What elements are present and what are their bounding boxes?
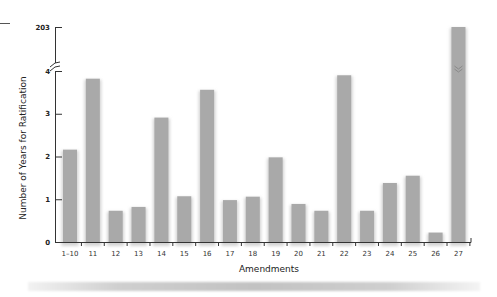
bar-chart: 1–101112131415161718192021222324252627 0… [0,0,497,297]
bar-15 [177,196,191,242]
x-tick-label: 16 [203,250,212,258]
y-tick-label: 0 [45,239,50,247]
x-tick-label: 20 [294,250,303,258]
bar-27 [451,27,465,242]
bar-11 [86,79,100,242]
x-tick-label: 26 [431,250,440,258]
bar-20 [292,204,306,242]
bar-12 [109,211,123,242]
y-tick-label: 203 [35,24,50,32]
x-tick-label: 14 [157,250,166,258]
x-tick-label: 17 [225,250,234,258]
x-tick-label: 18 [248,250,257,258]
y-axis-title: Number of Years for Ratification [18,76,28,219]
footer-shadow-band [28,282,480,291]
bar-19 [269,157,283,242]
bar-24 [383,183,397,242]
bar-26 [429,233,443,242]
x-tick-label: 19 [271,250,280,258]
bar-23 [360,211,374,242]
x-tick-label: 24 [385,250,394,258]
x-tick-label: 23 [363,250,372,258]
bar-16 [200,90,214,242]
bar-17 [223,200,237,242]
x-tick-label: 27 [454,250,463,258]
y-axis-ticks: 01234203 [35,24,62,247]
y-tick-label: 4 [45,68,50,76]
x-tick-label: 22 [340,250,349,258]
x-tick-label: 1–10 [62,250,79,258]
bar-13 [132,207,146,242]
y-tick-label: 3 [45,110,50,118]
y-tick-label: 1 [45,196,50,204]
x-tick-label: 25 [408,250,417,258]
x-axis-title: Amendments [239,264,299,274]
x-tick-label: 21 [317,250,326,258]
bar-21 [314,211,328,242]
x-tick-label: 15 [180,250,189,258]
bar-14 [154,118,168,242]
x-tick-label: 12 [111,250,120,258]
x-tick-label: 13 [134,250,143,258]
bar-25 [406,176,420,242]
y-axis-break-icon [50,62,60,71]
bar-22 [337,75,351,242]
bar-18 [246,197,260,242]
y-tick-label: 2 [45,153,50,161]
bar-1–10 [63,150,77,242]
x-tick-label: 11 [88,250,97,258]
